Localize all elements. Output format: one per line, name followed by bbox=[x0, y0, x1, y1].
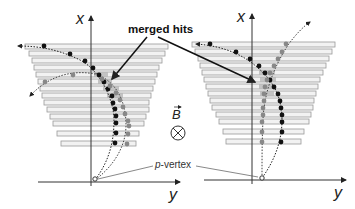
left-detector-layers bbox=[25, 44, 168, 146]
p-vertex-leader-right bbox=[196, 166, 258, 177]
p-vertex-label-rest: -vertex bbox=[161, 159, 192, 170]
left-x-axis-label: x bbox=[76, 10, 84, 28]
right-y-axis-label: y bbox=[334, 184, 342, 202]
left-y-axis-label: y bbox=[169, 186, 177, 204]
right-x-axis-label: x bbox=[237, 8, 245, 26]
b-field-into-page-icon bbox=[171, 126, 185, 140]
p-vertex-leader-left bbox=[98, 166, 153, 179]
p-vertex-label: p-vertex bbox=[155, 159, 191, 170]
right-p-vertex-marker bbox=[260, 176, 264, 180]
b-field-label: B bbox=[172, 107, 181, 122]
left-p-vertex-marker bbox=[93, 177, 97, 181]
merged-hits-label: merged hits bbox=[128, 23, 193, 35]
